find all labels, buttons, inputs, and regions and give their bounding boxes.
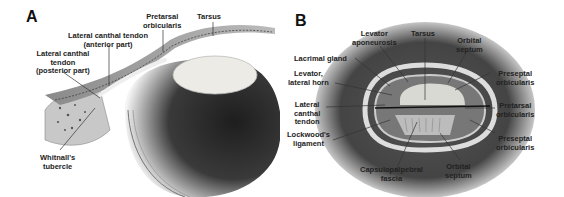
- label-lockwoods-ligament: Lockwood's ligament: [287, 131, 330, 148]
- label-lateral-canthal-tendon: Lateral canthal tendon: [294, 101, 320, 127]
- label-tarsus: Tarsus: [197, 13, 221, 22]
- label-lacrimal-gland: Lacrimal gland: [294, 55, 347, 64]
- label-orbital-septum-top: Orbital septum: [456, 37, 483, 54]
- panel-b-label: B: [295, 12, 307, 30]
- panel-b: B Levator aponeurosis Tarsus Orbital sep…: [280, 0, 564, 197]
- label-lateral-canthal-tendon-anterior: Lateral canthal tendon (anterior part): [68, 32, 148, 49]
- label-preseptal-orbicularis-top: Preseptal orbicularis: [496, 70, 534, 87]
- label-orbital-septum-bottom: Orbital septum: [445, 163, 472, 180]
- panel-a-label: A: [26, 8, 38, 26]
- label-levator-lateral-horn: Levator, lateral horn: [288, 70, 329, 87]
- label-levator-aponeurosis: Levator aponeurosis: [352, 30, 397, 47]
- label-tarsus: Tarsus: [411, 30, 435, 39]
- label-whitnalls-tubercle: Whitnall's tubercle: [40, 154, 75, 171]
- label-preseptal-orbicularis-bottom: Preseptal orbicularis: [496, 135, 534, 152]
- label-capsulopalpebral-fascia: Capsulopalpebral fascia: [360, 166, 423, 183]
- label-lateral-canthal-tendon-posterior: Lateral canthal tendon (posterior part): [36, 50, 90, 76]
- panel-a: A Pretarsal orbicularis Tarsus Lateral c…: [0, 0, 280, 197]
- label-pretarsal-orbicularis: Pretarsal orbicularis: [143, 13, 181, 30]
- label-pretarsal-orbicularis: Pretarsal orbicularis: [496, 102, 534, 119]
